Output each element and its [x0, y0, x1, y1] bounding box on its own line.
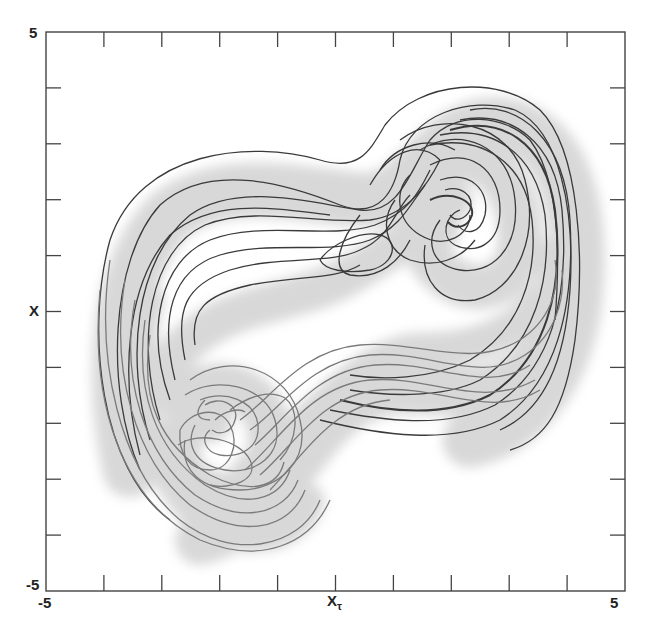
y-min-tick-label: -5 [26, 576, 39, 593]
y-max-tick-label: 5 [29, 24, 37, 41]
plot-area [0, 0, 656, 635]
x-axis-title: Xτ [327, 592, 342, 612]
attractor-figure: 5 -5 -5 5 X Xτ [0, 0, 656, 635]
y-axis-title: X [29, 302, 39, 319]
y-ticks-left [46, 88, 61, 535]
x-ticks-top [104, 32, 567, 47]
x-max-tick-label: 5 [610, 594, 618, 611]
x-axis-title-main: X [327, 592, 337, 609]
x-axis-title-subscript: τ [337, 600, 342, 612]
x-ticks-bottom [104, 575, 567, 591]
x-min-tick-label: -5 [38, 594, 51, 611]
y-ticks-right [610, 88, 625, 535]
